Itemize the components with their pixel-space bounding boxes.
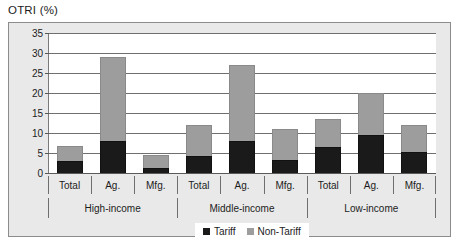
gray-square-icon [247,228,254,235]
x-axis-group-separator [177,198,178,218]
bar-segment-non-tariff [315,119,341,147]
chart-title: OTRI (%) [8,4,58,16]
x-axis-category-label: Mfg. [275,180,294,191]
legend-item: Non-Tariff [247,226,301,237]
x-axis-category-label: Ag. [364,180,379,191]
legend-item-label: Non-Tariff [258,226,301,237]
bar-segment-non-tariff [358,93,384,135]
y-axis-tick-label: 5 [37,148,43,159]
x-axis-group-label: Low-income [344,203,398,214]
bar-segment-tariff [186,156,212,173]
bar-segment-non-tariff [186,125,212,156]
x-axis-separator [48,176,49,194]
bar-stack [229,65,255,173]
legend-item: Tariff [203,226,236,237]
bar-segment-tariff [358,135,384,173]
bar-stack [143,155,169,173]
x-axis-separator [264,176,265,194]
bar-stack [100,57,126,173]
bar-stack [186,125,212,173]
bar-segment-non-tariff [57,146,83,161]
chart-figure: OTRI (%) 05101520253035 TotalAg.Mfg.Tota… [0,0,460,249]
x-axis-separator [435,176,436,194]
x-axis-group-separator [48,198,49,218]
chart-panel: 05101520253035 TotalAg.Mfg.TotalAg.Mfg.T… [8,22,451,237]
x-axis-separator [350,176,351,194]
x-axis-separator [393,176,394,194]
x-axis-separator [307,176,308,194]
x-axis-category-label: Total [188,180,209,191]
x-axis-category-row: TotalAg.Mfg.TotalAg.Mfg.TotalAg.Mfg. [48,174,436,196]
bar-segment-tariff [100,141,126,173]
y-axis-labels: 05101520253035 [19,33,43,173]
bar-segment-non-tariff [229,65,255,141]
bar-stack [401,125,427,173]
y-axis-tick-label: 15 [32,108,43,119]
bar-stack [272,129,298,173]
x-axis-separator [91,176,92,194]
y-axis-tick-label: 35 [32,28,43,39]
black-square-icon [203,228,210,235]
x-axis-category-label: Ag. [105,180,120,191]
x-axis-group-row: High-incomeMiddle-incomeLow-income [48,196,436,220]
chart-legend: TariffNon-Tariff [195,223,309,240]
x-axis-category-label: Total [318,180,339,191]
x-axis-category-label: Mfg. [405,180,424,191]
bar-stack [358,93,384,173]
y-axis-tick-label: 10 [32,128,43,139]
y-axis-tick-label: 0 [37,168,43,179]
bar-segment-non-tariff [401,125,427,152]
x-axis-group-label: Middle-income [209,203,274,214]
bar-segment-tariff [315,147,341,173]
x-axis-group-separator [307,198,308,218]
x-axis-category-label: Mfg. [146,180,165,191]
bar-segment-tariff [229,141,255,173]
x-axis-separator [177,176,178,194]
bar-segment-non-tariff [143,155,169,168]
x-axis-group-separator [435,198,436,218]
legend-item-label: Tariff [214,226,236,237]
bar-stack [315,119,341,173]
x-axis-category-label: Ag. [234,180,249,191]
bar-segment-tariff [143,168,169,173]
bar-segment-tariff [57,161,83,173]
bar-segment-tariff [401,152,427,173]
y-axis-tick-label: 30 [32,48,43,59]
x-axis-category-label: Total [59,180,80,191]
y-axis-tick-label: 20 [32,88,43,99]
bar-segment-tariff [272,160,298,173]
x-axis-separator [134,176,135,194]
bar-segment-non-tariff [100,57,126,141]
bar-segment-non-tariff [272,129,298,160]
bar-stack [57,146,83,173]
bars-layer [48,33,436,173]
x-axis-separator [220,176,221,194]
x-axis-group-label: High-income [85,203,141,214]
y-axis-tick-label: 25 [32,68,43,79]
